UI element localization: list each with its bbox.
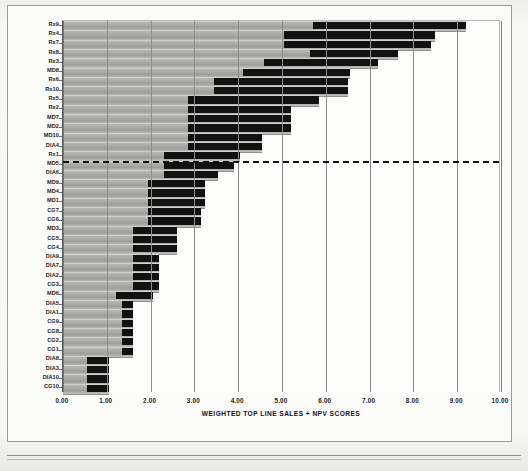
threshold-line [63, 161, 499, 163]
y-axis-label-rx5: Rx5 [48, 96, 59, 102]
bar-row [63, 86, 499, 95]
gridline-9.00 [457, 21, 458, 392]
bar-row [63, 207, 499, 216]
y-axis-label-dia9: DIA9 [46, 254, 59, 260]
bar-row [63, 374, 499, 383]
bar-row [63, 68, 499, 77]
bar-range-segment [188, 106, 291, 113]
bar-row [63, 272, 499, 281]
bar-row [63, 21, 499, 30]
bar-row [63, 188, 499, 197]
y-axis-label-rx3: Rx3 [48, 59, 59, 65]
bar-range-segment [133, 264, 159, 271]
x-axis-tick-0.00: 0.00 [42, 397, 82, 404]
bar-rows [63, 21, 499, 392]
x-axis-tick-9.00: 9.00 [436, 397, 476, 404]
bar-row [63, 254, 499, 263]
bar-range-segment [214, 87, 348, 94]
bar-row [63, 337, 499, 346]
bar-range-segment [122, 329, 133, 336]
y-axis-label-cg1: CG1 [47, 347, 59, 353]
bar-row [63, 281, 499, 290]
y-axis-label-md5: MD5 [47, 161, 59, 167]
y-axis-label-cg5: CG5 [47, 236, 59, 242]
bar-row [63, 384, 499, 393]
bar-range-segment [148, 189, 205, 196]
x-axis-tick-labels: 0.001.002.003.004.005.006.007.008.009.00… [8, 397, 528, 409]
bar-row [63, 77, 499, 86]
bar-range-segment [188, 96, 319, 103]
y-axis-label-md9: MD9 [47, 180, 59, 186]
y-axis-label-dia7: DIA7 [46, 263, 59, 269]
bar-row [63, 356, 499, 365]
y-axis-label-md4: MD4 [47, 189, 59, 195]
y-axis-label-cg6: CG6 [47, 217, 59, 223]
bar-row [63, 319, 499, 328]
y-axis-label-rx7: Rx7 [48, 40, 59, 46]
y-axis-label-rx10: Rx10 [45, 87, 59, 93]
bar-range-segment [133, 227, 177, 234]
bar-row [63, 40, 499, 49]
bar-range-segment [313, 22, 466, 29]
plot-area [62, 20, 500, 392]
gridline-5.00 [282, 21, 283, 392]
y-axis-label-rx8: Rx8 [48, 50, 59, 56]
x-axis-tick-3.00: 3.00 [173, 397, 213, 404]
page-divider-rule [7, 455, 521, 456]
bar-range-segment [133, 273, 159, 280]
bar-row [63, 170, 499, 179]
bar-range-segment [133, 236, 177, 243]
y-axis-label-dia10: DIA10 [43, 375, 59, 381]
gridline-10.00 [501, 21, 502, 392]
bar-range-segment [122, 338, 133, 345]
bar-row [63, 95, 499, 104]
bar-row [63, 235, 499, 244]
bar-range-segment [188, 134, 262, 141]
x-axis-tick-7.00: 7.00 [349, 397, 389, 404]
y-axis-label-dia8: DIA8 [46, 356, 59, 362]
bar-range-segment [188, 143, 262, 150]
y-axis-label-cg7: CG7 [47, 208, 59, 214]
bar-row [63, 58, 499, 67]
y-axis-label-cg2: CG2 [47, 338, 59, 344]
bar-range-segment [164, 152, 241, 159]
y-axis-label-md1: MD1 [47, 198, 59, 204]
y-axis-label-dia5: DIA5 [46, 301, 59, 307]
bar-row [63, 30, 499, 39]
y-axis-label-dia6: DIA6 [46, 170, 59, 176]
y-axis-label-rx4: Rx4 [48, 31, 59, 37]
bar-row [63, 244, 499, 253]
x-axis-tick-2.00: 2.00 [130, 397, 170, 404]
bar-row [63, 347, 499, 356]
y-axis-label-rx6: Rx6 [48, 77, 59, 83]
bar-range-segment [87, 357, 109, 364]
gridline-1.00 [107, 21, 108, 392]
gridline-4.00 [238, 21, 239, 392]
x-axis-title: WEIGHTED TOP LINE SALES + NPV SCORES [62, 410, 500, 417]
bar-row [63, 216, 499, 225]
bar-range-segment [164, 171, 219, 178]
y-axis-label-cg10: CG10 [44, 384, 59, 390]
y-axis-label-md10: MD10 [44, 133, 59, 139]
bar-range-segment [133, 255, 159, 262]
chart-frame: Rx9Rx4Rx7Rx8Rx3MD8Rx6Rx10Rx5Rx2MD7MD2MD1… [7, 5, 512, 442]
bar-row [63, 151, 499, 160]
gridline-8.00 [413, 21, 414, 392]
bar-row [63, 142, 499, 151]
screenshot-root: Rx9Rx4Rx7Rx8Rx3MD8Rx6Rx10Rx5Rx2MD7MD2MD1… [0, 0, 528, 471]
bar-range-segment [148, 217, 201, 224]
bar-range-segment [164, 162, 234, 169]
bar-range-segment [122, 348, 133, 355]
y-axis-label-rx9: Rx9 [48, 22, 59, 28]
bar-row [63, 300, 499, 309]
bar-row [63, 226, 499, 235]
bar-row [63, 105, 499, 114]
y-axis-label-dia3: DIA3 [46, 366, 59, 372]
x-axis-tick-8.00: 8.00 [392, 397, 432, 404]
gridline-7.00 [370, 21, 371, 392]
bar-row [63, 49, 499, 58]
bar-row [63, 365, 499, 374]
gridline-6.00 [326, 21, 327, 392]
bar-row [63, 198, 499, 207]
y-axis-label-cg4: CG4 [47, 245, 59, 251]
